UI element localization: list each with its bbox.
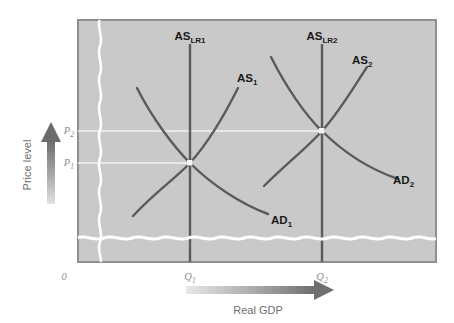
x-axis-title: Real GDP xyxy=(233,304,283,316)
x-axis-break-wave xyxy=(76,237,438,239)
x-tick-label-q1: Q1 xyxy=(184,271,195,285)
plot-area-background xyxy=(78,20,436,262)
origin-label: 0 xyxy=(61,271,67,282)
figure-canvas: ASLR1 ASLR2 AS1 AS2 AD1 AD2 P2 P1 0 Q1 xyxy=(0,0,454,323)
y-tick-label-p1: P1 xyxy=(63,157,74,171)
equilibrium-marker-2 xyxy=(319,128,325,134)
equilibrium-marker-1 xyxy=(187,160,193,166)
y-tick-label-p2: P2 xyxy=(63,125,74,139)
as-ad-diagram: ASLR1 ASLR2 AS1 AS2 AD1 AD2 P2 P1 0 Q1 xyxy=(0,0,454,323)
real-gdp-arrow-icon xyxy=(186,280,334,300)
price-level-arrow-icon xyxy=(41,122,61,204)
y-axis-title: Price level xyxy=(21,140,33,191)
